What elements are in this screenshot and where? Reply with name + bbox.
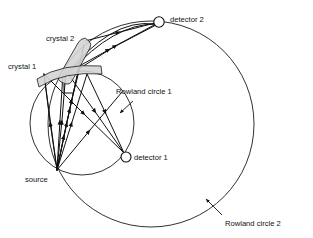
rowland-circle-diagram: crystal 2 crystal 1 detector 1 detector …	[0, 0, 313, 238]
rowland-circle-2-label: Rowland circle 2	[225, 219, 281, 228]
diagram-canvas: crystal 2 crystal 1 detector 1 detector …	[0, 0, 313, 238]
source-label: source	[25, 175, 48, 184]
rowland-circle-1-label: Rowland circle 1	[116, 87, 172, 96]
detector-2-marker[interactable]	[154, 17, 164, 27]
crystal-2-label: crystal 2	[46, 34, 74, 43]
detector-2-label: detector 2	[170, 15, 204, 24]
crystal-1-label: crystal 1	[8, 62, 36, 71]
detector-1-marker[interactable]	[121, 152, 131, 162]
crystal-1-mount-detail	[64, 84, 73, 93]
detector-1-label: detector 1	[134, 153, 168, 162]
ray-group-crystal1-to-detector1	[44, 71, 124, 170]
